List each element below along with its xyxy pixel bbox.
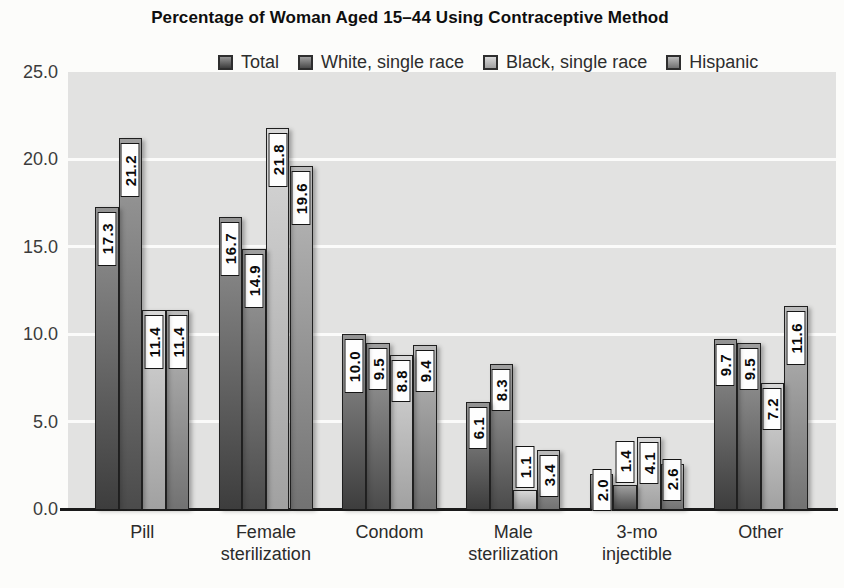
- y-tick-label-0.0: 0.0: [0, 498, 58, 520]
- bar-value-text: 10.0: [346, 351, 363, 382]
- bar-value-label: 21.2: [121, 143, 140, 197]
- bar-other-total: 9.7: [714, 339, 738, 509]
- legend-swatch-white-single-race: [298, 55, 313, 70]
- bar-pill-black-single-race: 11.4: [142, 310, 166, 509]
- legend-item-total: Total: [218, 52, 279, 73]
- bar-value-label: 17.3: [97, 212, 116, 266]
- bar-value-text: 11.6: [788, 323, 805, 353]
- bar-value-text: 3.4: [540, 464, 557, 486]
- bar-value-label: 14.9: [245, 254, 264, 308]
- bar-3-mo-injectible-total: 2.0: [590, 474, 614, 509]
- bar-value-label: 8.3: [492, 369, 511, 411]
- y-tick-label-5.0: 5.0: [0, 411, 58, 433]
- bar-value-text: 11.4: [145, 327, 162, 357]
- bar-value-label: 6.1: [468, 407, 487, 449]
- legend-label: Black, single race: [506, 52, 647, 73]
- bar-value-label: 9.7: [716, 344, 735, 386]
- bar-female-sterilization-hispanic: 19.6: [290, 166, 314, 509]
- bar-value-label: 2.0: [592, 469, 611, 511]
- bar-value-label: 11.6: [787, 311, 806, 365]
- bar-value-label: 1.1: [516, 446, 535, 488]
- bar-female-sterilization-total: 16.7: [219, 217, 243, 509]
- bar-condom-hispanic: 9.4: [413, 345, 437, 509]
- bar-value-label: 11.4: [144, 315, 163, 369]
- bar-other-black-single-race: 7.2: [761, 383, 785, 509]
- bar-3-mo-injectible-hispanic: 2.6: [661, 464, 685, 509]
- y-tick-label-20.0: 20.0: [0, 148, 58, 170]
- bar-other-hispanic: 11.6: [784, 306, 808, 509]
- bar-value-text: 9.4: [416, 360, 433, 382]
- bar-value-text: 17.3: [98, 223, 115, 254]
- bar-3-mo-injectible-white-single-race: 1.4: [613, 485, 637, 509]
- bar-value-text: 11.4: [169, 327, 186, 357]
- bar-value-text: 2.6: [664, 468, 681, 490]
- legend-item-hispanic: Hispanic: [666, 52, 758, 73]
- bar-male-sterilization-black-single-race: 1.1: [513, 490, 537, 509]
- legend-label: Hispanic: [689, 52, 758, 73]
- bar-condom-white-single-race: 9.5: [366, 343, 390, 509]
- x-axis-label-other: Other: [686, 521, 836, 543]
- bar-male-sterilization-total: 6.1: [466, 402, 490, 509]
- legend-swatch-total: [218, 55, 233, 70]
- legend-item-black-single-race: Black, single race: [483, 52, 647, 73]
- bar-value-label: 9.5: [368, 348, 387, 390]
- bar-value-label: 8.8: [392, 360, 411, 402]
- bar-condom-total: 10.0: [342, 334, 366, 509]
- bar-value-label: 4.1: [639, 442, 658, 484]
- bar-male-sterilization-hispanic: 3.4: [537, 450, 561, 509]
- bar-value-label: 3.4: [539, 455, 558, 497]
- bar-value-text: 9.5: [369, 358, 386, 380]
- bar-value-text: 2.0: [593, 479, 610, 501]
- legend-label: Total: [241, 52, 279, 73]
- gridline-20.0: [68, 158, 836, 161]
- chart-legend: TotalWhite, single raceBlack, single rac…: [218, 52, 758, 73]
- bar-value-label: 21.8: [268, 133, 287, 187]
- bar-value-text: 1.1: [517, 456, 534, 478]
- bar-value-text: 16.7: [222, 233, 239, 264]
- bar-value-text: 14.9: [246, 265, 263, 296]
- bar-value-text: 4.1: [640, 452, 657, 474]
- bar-value-text: 21.2: [122, 155, 139, 186]
- legend-label: White, single race: [321, 52, 464, 73]
- bar-3-mo-injectible-black-single-race: 4.1: [637, 437, 661, 509]
- bar-value-text: 21.8: [269, 144, 286, 175]
- bar-value-text: 7.2: [764, 398, 781, 420]
- bar-value-text: 8.8: [393, 370, 410, 392]
- bar-other-white-single-race: 9.5: [737, 343, 761, 509]
- contraceptive-method-chart: Percentage of Woman Aged 15–44 Using Con…: [0, 0, 844, 588]
- bar-female-sterilization-black-single-race: 21.8: [266, 128, 290, 509]
- gridline-15.0: [68, 245, 836, 248]
- bar-female-sterilization-white-single-race: 14.9: [242, 249, 266, 509]
- bar-pill-total: 17.3: [95, 207, 119, 509]
- bar-value-text: 6.1: [469, 417, 486, 439]
- bar-value-label: 11.4: [168, 315, 187, 369]
- chart-title: Percentage of Woman Aged 15–44 Using Con…: [0, 8, 820, 28]
- y-tick-label-25.0: 25.0: [0, 61, 58, 83]
- bar-value-text: 1.4: [617, 450, 634, 472]
- plot-area: 17.321.211.411.416.714.921.819.610.09.58…: [68, 72, 836, 509]
- bar-value-label: 2.6: [663, 459, 682, 501]
- bar-male-sterilization-white-single-race: 8.3: [490, 364, 514, 509]
- y-tick-label-10.0: 10.0: [0, 323, 58, 345]
- bar-value-text: 9.7: [717, 354, 734, 376]
- y-tick-label-15.0: 15.0: [0, 236, 58, 258]
- legend-item-white-single-race: White, single race: [298, 52, 464, 73]
- legend-swatch-hispanic: [666, 55, 681, 70]
- bar-condom-black-single-race: 8.8: [390, 355, 414, 509]
- legend-swatch-black-single-race: [483, 55, 498, 70]
- bar-pill-white-single-race: 21.2: [119, 138, 143, 509]
- bar-value-label: 19.6: [292, 171, 311, 225]
- bar-pill-hispanic: 11.4: [166, 310, 190, 509]
- bar-value-label: 9.4: [415, 350, 434, 392]
- bar-value-text: 9.5: [740, 358, 757, 380]
- bar-value-label: 1.4: [616, 441, 635, 483]
- bar-value-label: 9.5: [739, 348, 758, 390]
- bar-value-label: 16.7: [221, 222, 240, 276]
- bar-value-text: 19.6: [293, 183, 310, 214]
- bar-value-label: 7.2: [763, 388, 782, 430]
- bar-value-text: 8.3: [493, 379, 510, 401]
- bar-value-label: 10.0: [345, 339, 364, 393]
